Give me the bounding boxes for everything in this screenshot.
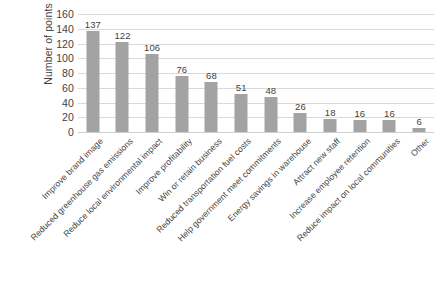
x-axis-category-labels: Improve brand imageReduced greenhouse ga… (0, 132, 443, 288)
bar-value-label: 16 (354, 108, 365, 119)
bar-group[interactable]: 122 (108, 14, 138, 132)
bar-series: 13712210676685148261816166 (78, 14, 434, 132)
x-tick-label: Other (409, 136, 431, 158)
bar-group[interactable]: 51 (226, 14, 256, 132)
bar-chart: Number of points 160140120100806040200 1… (0, 0, 443, 288)
bar[interactable] (175, 76, 188, 132)
y-tick-label: 160 (56, 8, 74, 20)
bar-group[interactable]: 76 (167, 14, 197, 132)
bar-value-label: 26 (295, 101, 306, 112)
bar-value-label: 68 (206, 70, 217, 81)
bar-group[interactable]: 48 (256, 14, 286, 132)
bar-group[interactable]: 16 (345, 14, 375, 132)
bar-value-label: 6 (416, 116, 421, 127)
bar-group[interactable]: 6 (404, 14, 434, 132)
bar-value-label: 106 (144, 42, 160, 53)
bar-group[interactable]: 137 (78, 14, 108, 132)
bar-value-label: 51 (236, 82, 247, 93)
bar-value-label: 122 (114, 30, 130, 41)
bar-group[interactable]: 68 (197, 14, 227, 132)
bar[interactable] (324, 119, 337, 132)
y-tick-label: 40 (62, 97, 74, 109)
bar[interactable] (205, 82, 218, 132)
bar-value-label: 76 (176, 64, 187, 75)
bar-group[interactable]: 18 (315, 14, 345, 132)
y-tick-label: 140 (56, 23, 74, 35)
bar-group[interactable]: 26 (286, 14, 316, 132)
bar[interactable] (116, 42, 129, 132)
bar-value-label: 16 (384, 108, 395, 119)
bar-value-label: 137 (85, 19, 101, 30)
bar[interactable] (383, 120, 396, 132)
bar[interactable] (264, 97, 277, 132)
y-tick-label: 120 (56, 38, 74, 50)
bar[interactable] (353, 120, 366, 132)
y-axis-tick-labels: 160140120100806040200 (46, 14, 74, 132)
y-tick-label: 60 (62, 82, 74, 94)
bar-value-label: 48 (265, 85, 276, 96)
bar-group[interactable]: 106 (137, 14, 167, 132)
bar[interactable] (294, 113, 307, 132)
bar[interactable] (86, 31, 99, 132)
y-tick-label: 100 (56, 52, 74, 64)
y-tick-label: 20 (62, 111, 74, 123)
plot-area: 13712210676685148261816166 (78, 14, 434, 132)
y-tick-label: 80 (62, 67, 74, 79)
bar-value-label: 18 (325, 107, 336, 118)
bar-group[interactable]: 16 (375, 14, 405, 132)
bar[interactable] (146, 54, 159, 132)
bar[interactable] (235, 94, 248, 132)
